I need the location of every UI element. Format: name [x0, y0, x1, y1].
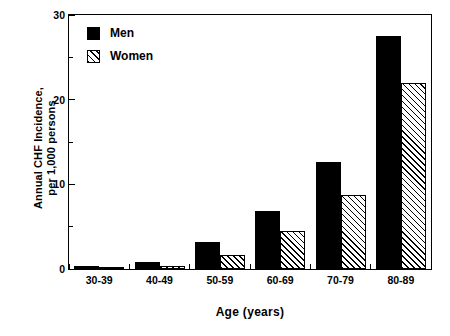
- bar-men-70-79: [316, 162, 341, 269]
- bar-women-80-89: [401, 83, 426, 269]
- bar-men-40-49: [135, 262, 160, 269]
- bar-women-50-59: [220, 255, 245, 269]
- y-axis-title: Annual CHF Incidence, per 1,000 persons: [25, 38, 65, 258]
- bar-women-40-49: [160, 266, 185, 269]
- y-axis-tick-mark: [69, 226, 73, 227]
- x-axis-title: Age (years): [68, 305, 432, 319]
- y-axis-tick-mark: [69, 15, 75, 16]
- bar-men-50-59: [195, 242, 220, 269]
- y-axis-tick-mark: [69, 142, 73, 143]
- plot-area: Men Women 010203030-3940-4950-5960-6970-…: [68, 14, 432, 270]
- x-axis-tick-mark: [431, 264, 432, 269]
- x-axis-tick-mark: [129, 264, 130, 269]
- x-axis-tick-mark: [189, 264, 190, 269]
- y-axis-tick-label: 10: [53, 176, 65, 192]
- legend-item-men: Men: [87, 23, 153, 43]
- y-axis-tick-mark: [69, 57, 73, 58]
- legend-label-men: Men: [110, 26, 134, 40]
- legend-swatch-women-icon: [87, 50, 100, 63]
- bar-men-60-69: [255, 211, 280, 269]
- chart-legend: Men Women: [87, 23, 153, 69]
- y-axis-tick-mark: [69, 184, 75, 185]
- legend-swatch-men-icon: [87, 27, 100, 40]
- y-axis-tick-label: 30: [53, 7, 65, 23]
- y-axis-tick-mark: [69, 99, 75, 100]
- bar-women-60-69: [280, 231, 305, 269]
- x-axis-tick-mark: [310, 264, 311, 269]
- bar-men-80-89: [376, 36, 401, 269]
- x-axis-tick-mark: [69, 264, 70, 269]
- bar-women-30-39: [99, 267, 124, 269]
- x-axis-tick-mark: [370, 264, 371, 269]
- x-axis-tick-mark: [250, 264, 251, 269]
- legend-label-women: Women: [110, 49, 153, 63]
- chart-figure: Annual CHF Incidence, per 1,000 persons …: [0, 0, 450, 336]
- x-axis-tick-label: 80-89: [361, 274, 441, 286]
- y-axis-tick-label: 20: [53, 92, 65, 108]
- legend-item-women: Women: [87, 46, 153, 66]
- bar-women-70-79: [341, 195, 366, 269]
- bar-men-30-39: [74, 266, 99, 269]
